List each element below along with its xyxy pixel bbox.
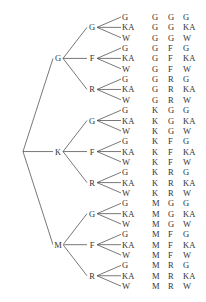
outcome-cell: KA [183, 209, 195, 219]
branch-line [97, 276, 121, 286]
outcome-cell: G [183, 105, 189, 115]
outcome-cell: G [168, 126, 174, 136]
outcome-cell: G [183, 260, 189, 270]
outcome-cell: G [168, 198, 174, 208]
outcome-cell: K [152, 116, 158, 126]
outcome-cell: R [168, 271, 174, 281]
node-leaf: G [122, 74, 128, 84]
branch-line [97, 121, 121, 131]
branch-line [97, 110, 121, 120]
node-leaf: W [122, 281, 130, 291]
outcome-cell: K [152, 147, 158, 157]
outcome-cell: G [168, 33, 174, 43]
node-leaf: G [122, 12, 128, 22]
outcome-cell: F [168, 250, 173, 260]
node-leaf: W [122, 188, 130, 198]
outcome-cell: K [152, 167, 158, 177]
outcome-cell: G [168, 22, 174, 32]
outcome-cell: F [168, 229, 173, 239]
node-level2: G [88, 116, 96, 126]
outcome-cell: G [152, 53, 158, 63]
node-level2: R [88, 178, 96, 188]
node-level1: G [54, 53, 62, 63]
node-level2: G [88, 22, 96, 32]
branch-line [97, 245, 121, 255]
outcome-cell: F [168, 136, 173, 146]
branch-line [23, 58, 53, 151]
node-level2: G [88, 209, 96, 219]
outcome-cell: R [168, 178, 174, 188]
outcome-cell: M [152, 209, 160, 219]
node-level2: F [89, 240, 96, 250]
outcome-cell: R [168, 84, 174, 94]
node-leaf: KA [122, 271, 134, 281]
node-leaf: G [122, 260, 128, 270]
outcome-cell: W [183, 33, 191, 43]
outcome-cell: G [152, 74, 158, 84]
node-leaf: G [122, 198, 128, 208]
outcome-cell: G [152, 43, 158, 53]
branch-line [97, 89, 121, 99]
outcome-cell: G [183, 136, 189, 146]
outcome-cell: KA [183, 178, 195, 188]
outcome-cell: KA [183, 271, 195, 281]
outcome-cell: K [152, 126, 158, 136]
node-level2: R [88, 84, 96, 94]
outcome-cell: W [183, 281, 191, 291]
outcome-cell: G [168, 219, 174, 229]
node-leaf: W [122, 157, 130, 167]
outcome-cell: G [152, 95, 158, 105]
branch-line [97, 79, 121, 89]
outcome-cell: F [168, 240, 173, 250]
outcome-cell: KA [183, 240, 195, 250]
outcome-cell: G [152, 22, 158, 32]
node-leaf: W [122, 250, 130, 260]
outcome-cell: R [168, 74, 174, 84]
outcome-cell: M [152, 260, 160, 270]
outcome-cell: G [152, 12, 158, 22]
outcome-cell: M [152, 240, 160, 250]
branch-line [97, 48, 121, 58]
outcome-cell: G [152, 33, 158, 43]
node-leaf: G [122, 43, 128, 53]
outcome-cell: KA [183, 53, 195, 63]
outcome-cell: G [183, 198, 189, 208]
branch-line [63, 245, 87, 276]
outcome-cell: W [183, 126, 191, 136]
outcome-cell: G [152, 84, 158, 94]
node-level1: M [53, 240, 63, 250]
node-leaf: G [122, 105, 128, 115]
outcome-cell: KA [183, 84, 195, 94]
outcome-cell: M [152, 250, 160, 260]
branch-line [97, 183, 121, 193]
node-leaf: W [122, 64, 130, 74]
outcome-cell: R [168, 260, 174, 270]
outcome-cell: M [152, 271, 160, 281]
outcome-cell: R [168, 167, 174, 177]
outcome-cell: KA [183, 22, 195, 32]
outcome-cell: F [168, 43, 173, 53]
node-leaf: KA [122, 116, 134, 126]
branch-line [63, 27, 87, 58]
node-level2: R [88, 271, 96, 281]
outcome-cell: G [183, 167, 189, 177]
outcome-cell: G [152, 64, 158, 74]
outcome-cell: G [183, 12, 189, 22]
branch-line [97, 141, 121, 151]
node-leaf: KA [122, 147, 134, 157]
outcome-cell: K [152, 178, 158, 188]
outcome-cell: M [152, 229, 160, 239]
outcome-cell: F [168, 53, 173, 63]
outcome-cell: W [183, 250, 191, 260]
branch-line [97, 265, 121, 275]
node-leaf: KA [122, 209, 134, 219]
node-leaf: KA [122, 84, 134, 94]
tree-diagram-lines [0, 0, 206, 302]
outcome-cell: K [152, 157, 158, 167]
outcome-cell: KA [183, 116, 195, 126]
outcome-cell: F [168, 157, 173, 167]
node-leaf: KA [122, 178, 134, 188]
outcome-cell: G [183, 43, 189, 53]
node-leaf: KA [122, 22, 134, 32]
branch-line [63, 121, 87, 152]
